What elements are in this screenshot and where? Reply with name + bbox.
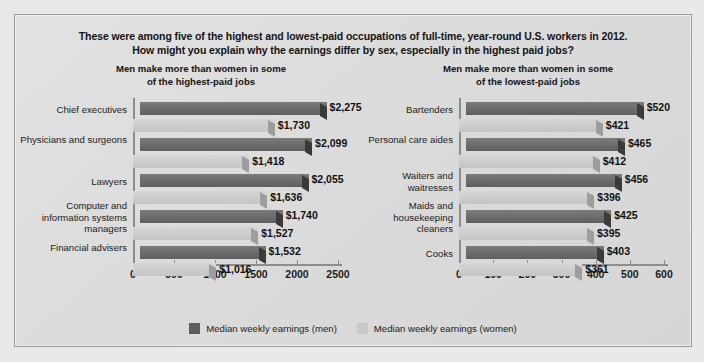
bar-value-label: $1,532: [269, 245, 301, 257]
bar-3d-side: [587, 228, 594, 245]
bar-group: Cooks$403$361: [359, 246, 691, 276]
bar-value-label: $1,636: [270, 191, 302, 203]
bar-3d-side: [637, 103, 644, 120]
bar-3d-side: [618, 139, 625, 156]
bar-value-label: $396: [597, 191, 620, 203]
bar-value-label: $395: [597, 227, 620, 239]
bar-value-label: $2,275: [330, 101, 362, 113]
bar-men: [140, 246, 266, 259]
category-label: Maids and housekeeping cleaners: [359, 200, 453, 235]
bar-face: [466, 174, 622, 187]
bar-women: [459, 119, 603, 132]
bar-women: [459, 263, 582, 276]
bar-men: [466, 138, 625, 151]
bar-men: [466, 174, 622, 187]
category-label: Waiters and waitresses: [359, 170, 453, 193]
legend-item-women: Median weekly earnings (women): [357, 323, 517, 334]
bar-face: [140, 210, 283, 223]
category-label: Computer and information systems manager…: [19, 200, 127, 235]
bar-3d-side: [597, 247, 604, 264]
bar-face: [140, 246, 266, 259]
bar-value-label: $456: [625, 173, 648, 185]
chart-panel-highest-paid: Men make more than women in some of the …: [19, 63, 365, 313]
chart-title-right-line-2: of the lowest-paid jobs: [365, 76, 691, 89]
bar-value-label: $1,527: [261, 227, 293, 239]
legend-item-men: Median weekly earnings (men): [189, 323, 337, 334]
bar-face: [133, 227, 258, 240]
bar-face: [459, 119, 603, 132]
bar-face: [459, 263, 582, 276]
bar-face: [140, 102, 327, 115]
bar-value-label: $403: [607, 245, 630, 257]
bar-value-label: $465: [628, 137, 651, 149]
heading-line-1: These were among five of the highest and…: [35, 29, 671, 43]
bar-value-label: $520: [647, 101, 670, 113]
bar-value-label: $421: [606, 119, 629, 131]
bar-3d-side: [615, 175, 622, 192]
bar-face: [133, 119, 275, 132]
category-label: Chief executives: [19, 104, 127, 116]
chart-frame: These were among five of the highest and…: [14, 14, 692, 347]
bar-women: [133, 227, 258, 240]
chart-title-left-line-2: of the highest-paid jobs: [37, 76, 365, 89]
bar-face: [133, 191, 267, 204]
bar-women: [459, 227, 594, 240]
bar-face: [459, 191, 594, 204]
chart-title-left: Men make more than women in some of the …: [19, 63, 365, 88]
bar-women: [133, 191, 267, 204]
bar-face: [140, 174, 309, 187]
bar-face: [466, 138, 625, 151]
bar-3d-side: [604, 211, 611, 228]
bar-face: [466, 102, 644, 115]
bar-women: [133, 119, 275, 132]
bar-group: Financial advisers$1,532$1,016: [19, 246, 365, 276]
bar-value-label: $1,418: [252, 155, 284, 167]
bar-3d-side: [320, 103, 327, 120]
category-label: Cooks: [359, 248, 453, 260]
heading-line-2: How might you explain why the earnings d…: [35, 43, 671, 57]
bar-group: Personal care aides$465$412: [359, 138, 691, 168]
bar-women: [459, 191, 594, 204]
bar-women: [133, 263, 216, 276]
bar-value-label: $361: [585, 263, 608, 275]
page-title: These were among five of the highest and…: [35, 29, 671, 57]
bar-women: [459, 155, 600, 168]
bar-face: [459, 227, 594, 240]
bar-face: [140, 138, 312, 151]
bar-3d-side: [305, 139, 312, 156]
plot-area-right: 0100200300400500600Bartenders$520$421Per…: [359, 98, 691, 286]
category-label: Personal care aides: [359, 134, 453, 146]
bar-face: [133, 155, 249, 168]
category-label: Physicians and surgeons: [19, 134, 127, 146]
chart-title-right: Men make more than women in some of the …: [359, 63, 691, 88]
bar-men: [466, 210, 611, 223]
legend-swatch-women-icon: [357, 323, 368, 334]
bar-3d-side: [251, 228, 258, 245]
legend-label-women: Median weekly earnings (women): [374, 323, 517, 334]
plot-area-left: 05001000150020002500Chief executives$2,2…: [19, 98, 365, 286]
legend-swatch-men-icon: [189, 323, 200, 334]
bar-3d-side: [596, 120, 603, 137]
bar-3d-side: [259, 247, 266, 264]
bar-men: [466, 246, 604, 259]
bar-group: Maids and housekeeping cleaners$425$395: [359, 210, 691, 240]
bar-men: [140, 210, 283, 223]
chart-title-right-line-1: Men make more than women in some: [365, 63, 691, 76]
bar-value-label: $425: [614, 209, 637, 221]
bar-face: [466, 210, 611, 223]
chart-title-left-line-1: Men make more than women in some: [37, 63, 365, 76]
chart-legend: Median weekly earnings (men) Median week…: [15, 323, 691, 334]
chart-panel-lowest-paid: Men make more than women in some of the …: [359, 63, 691, 313]
bar-group: Physicians and surgeons$2,099$1,418: [19, 138, 365, 168]
bar-3d-side: [593, 156, 600, 173]
bar-men: [140, 102, 327, 115]
bar-face: [133, 263, 216, 276]
bar-group: Chief executives$2,275$1,730: [19, 102, 365, 132]
bar-value-label: $1,730: [278, 119, 310, 131]
bar-women: [133, 155, 249, 168]
category-label: Lawyers: [19, 176, 127, 188]
bar-men: [140, 138, 312, 151]
bar-value-label: $1,740: [286, 209, 318, 221]
bar-group: Computer and information systems manager…: [19, 210, 365, 240]
category-label: Financial advisers: [19, 242, 127, 254]
